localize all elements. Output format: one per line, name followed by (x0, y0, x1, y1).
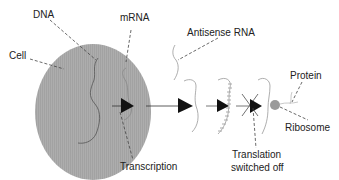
arrow-3-head (250, 99, 262, 113)
translation-pointer (253, 108, 256, 148)
label-cell: Cell (9, 50, 26, 61)
antisense-rna-strand (173, 45, 178, 80)
diagram-canvas (0, 0, 339, 180)
protein-strand (280, 92, 298, 104)
antisense-pointer (178, 38, 218, 60)
arrow-1-head (178, 98, 193, 113)
mrna-pointer (126, 30, 131, 62)
label-dna: DNA (33, 9, 54, 20)
label-translation-line1: Translation (232, 149, 281, 160)
arrow-2-head (217, 99, 229, 112)
cell-body (35, 44, 151, 180)
protein-pointer (292, 82, 302, 102)
label-antisense-rna: Antisense RNA (187, 27, 255, 38)
label-ribosome: Ribosome (285, 122, 330, 133)
ribosome-icon (270, 100, 280, 110)
label-mrna: mRNA (120, 12, 149, 23)
label-transcription: Transcription (120, 161, 177, 172)
label-translation-line2: switched off (231, 162, 284, 173)
label-protein: Protein (290, 70, 322, 81)
ribosome-pointer (280, 107, 308, 120)
